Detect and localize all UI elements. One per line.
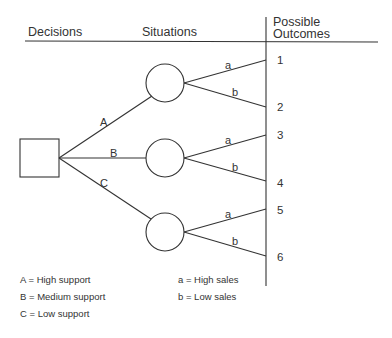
situation-branch-3b bbox=[184, 232, 266, 256]
header-decisions: Decisions bbox=[28, 25, 82, 39]
outcome-4: 4 bbox=[277, 177, 284, 189]
chance-node-2 bbox=[146, 139, 184, 177]
legend-situation-b: b = Low sales bbox=[178, 291, 237, 302]
situation-branch-2b bbox=[184, 158, 266, 181]
situation-branch-1b bbox=[184, 83, 266, 107]
legend-decision-b: B = Medium support bbox=[20, 291, 106, 302]
chance-node-3 bbox=[146, 213, 184, 251]
outcome-6: 6 bbox=[277, 251, 283, 263]
outcome-1: 1 bbox=[277, 54, 283, 66]
outcome-5: 5 bbox=[277, 204, 283, 216]
decision-label-a: A bbox=[100, 116, 108, 128]
header-situations: Situations bbox=[142, 25, 197, 39]
chance-node-1 bbox=[146, 64, 184, 102]
situation-label-1a: a bbox=[225, 59, 232, 71]
situation-label-1b: b bbox=[232, 86, 238, 98]
situation-label-3a: a bbox=[225, 208, 232, 220]
header-outcomes-line2: Outcomes bbox=[273, 27, 330, 41]
decision-node bbox=[20, 139, 59, 177]
legend-situation-a: a = High sales bbox=[178, 274, 239, 285]
outcome-2: 2 bbox=[277, 101, 283, 113]
decision-tree-diagram: Decisions Situations Possible Outcomes A… bbox=[0, 0, 392, 338]
situation-label-2a: a bbox=[225, 134, 232, 146]
legend-decision-c: C = Low support bbox=[20, 308, 90, 319]
situation-label-2b: b bbox=[232, 161, 238, 173]
header-divider bbox=[25, 41, 378, 42]
legend-decision-a: A = High support bbox=[20, 274, 91, 285]
outcome-3: 3 bbox=[277, 129, 283, 141]
situation-label-3b: b bbox=[232, 235, 238, 247]
decision-label-b: B bbox=[110, 147, 117, 159]
decision-label-c: C bbox=[100, 177, 108, 189]
